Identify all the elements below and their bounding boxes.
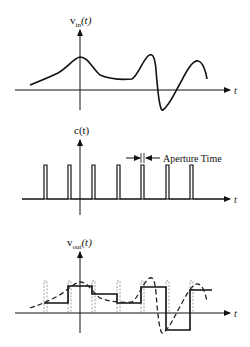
input-overlay-dashed (30, 278, 207, 333)
clock-pulse-train (22, 165, 225, 199)
y-axis-label: vout(t) (67, 236, 92, 251)
y-axis-label: c(t) (74, 124, 90, 137)
x-axis-label: t (234, 194, 237, 205)
output-panel: vout(t) t (15, 236, 237, 333)
aperture-time-label: Aperture Time (163, 153, 222, 164)
sampling-pulses (44, 281, 193, 313)
clock-panel: c(t) t Aperture Time (22, 124, 237, 215)
held-output-staircase (44, 286, 212, 330)
input-waveform (30, 55, 207, 110)
sample-hold-diagram: vin(t) t c(t) t Aperture Time vout(t) t (0, 0, 250, 347)
input-signal-panel: vin(t) t (15, 14, 237, 110)
x-axis-label: t (234, 85, 237, 96)
y-axis-label: vin(t) (70, 14, 92, 29)
x-axis-label: t (234, 308, 237, 319)
